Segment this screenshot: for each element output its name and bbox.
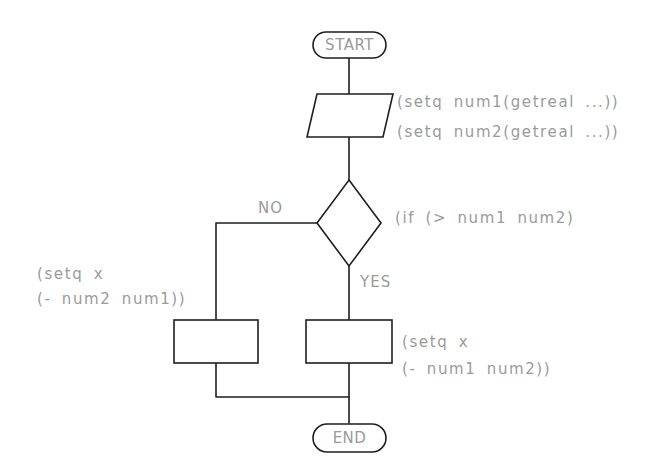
process-no-code-line-1: (setq x: [37, 267, 104, 282]
flowchart-canvas: [0, 0, 666, 476]
connector-no-branch: [216, 223, 317, 320]
end-label: END: [313, 431, 386, 446]
yes-branch-label: YES: [360, 275, 391, 290]
process-no-code-line-2: (- num2 num1)): [37, 292, 186, 307]
connector-no-to-merge: [216, 363, 349, 397]
start-label: START: [313, 38, 386, 53]
process-yes-code-line-1: (setq x: [402, 335, 469, 350]
decision-code: (if (> num1 num2): [395, 211, 574, 226]
no-branch-label: NO: [258, 201, 283, 216]
input-parallelogram: [307, 94, 393, 137]
decision-diamond: [317, 180, 381, 266]
process-box-no: [174, 320, 258, 363]
input-code-line-2: (setq num2(getreal ...)): [397, 125, 619, 140]
input-code-line-1: (setq num1(getreal ...)): [397, 95, 619, 110]
process-box-yes: [306, 320, 392, 363]
process-yes-code-line-2: (- num1 num2)): [402, 362, 551, 377]
